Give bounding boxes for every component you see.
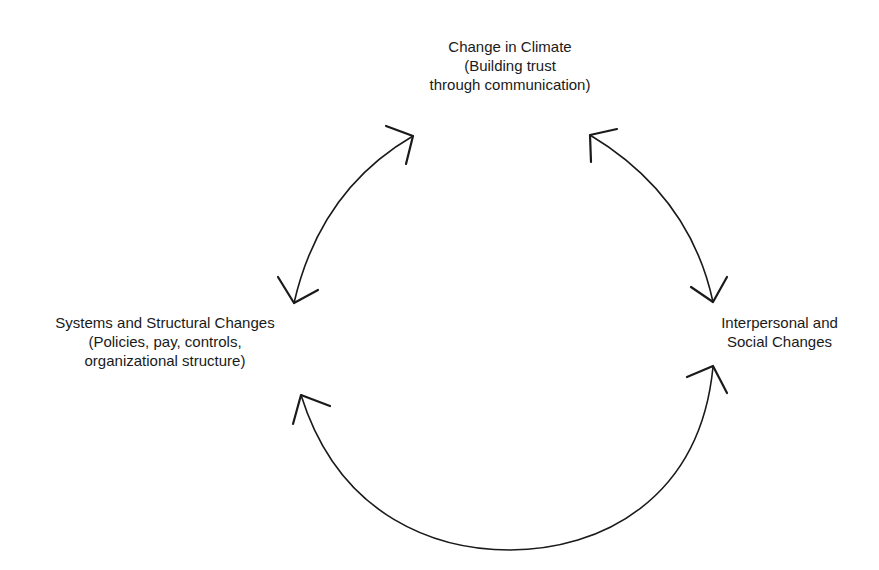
node-title: Change in Climate — [380, 37, 640, 56]
node-title: Interpersonal and — [680, 313, 879, 332]
arrow-top-right — [590, 129, 727, 302]
node-interpersonal-social-changes: Interpersonal and Social Changes — [680, 313, 879, 351]
node-subtitle: organizational structure) — [0, 351, 330, 370]
node-change-in-climate: Change in Climate (Building trust throug… — [380, 37, 640, 94]
node-title: Systems and Structural Changes — [0, 313, 330, 332]
arrow-bottom — [293, 366, 727, 550]
node-title: Social Changes — [680, 332, 879, 351]
node-subtitle: (Policies, pay, controls, — [0, 332, 330, 351]
node-subtitle: (Building trust — [380, 56, 640, 75]
node-subtitle: through communication) — [380, 75, 640, 94]
node-systems-structural-changes: Systems and Structural Changes (Policies… — [0, 313, 330, 370]
arrow-top-left — [278, 126, 413, 303]
